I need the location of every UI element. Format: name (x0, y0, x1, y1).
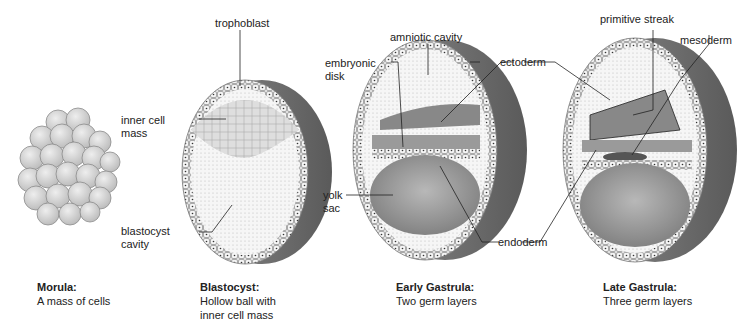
embryo-development-diagram (0, 0, 746, 326)
caption-morula: Morula: A mass of cells (37, 280, 110, 308)
label-amniotic-cavity: amniotic cavity (390, 31, 462, 44)
late-gastrula-illustration (563, 38, 737, 262)
caption-late-gastrula: Late Gastrula: Three germ layers (603, 280, 692, 308)
blastocyst-illustration (182, 80, 332, 264)
morula-illustration (18, 108, 120, 225)
label-ectoderm: ectoderm (500, 56, 546, 69)
label-primitive-streak: primitive streak (600, 13, 674, 26)
label-inner-cell-mass: inner cell mass (121, 114, 165, 140)
caption-early-gastrula: Early Gastrula: Two germ layers (396, 280, 477, 308)
label-endoderm: endoderm (498, 236, 548, 249)
label-embryonic-disk: embryonic disk (325, 57, 376, 83)
caption-blastocyst: Blastocyst: Hollow ball with inner cell … (200, 280, 276, 322)
label-blastocyst-cavity: blastocyst cavity (121, 225, 170, 251)
label-trophoblast: trophoblast (215, 17, 269, 30)
label-yolk-sac: yolk sac (323, 189, 343, 215)
label-mesoderm: mesoderm (680, 34, 732, 47)
early-gastrula-illustration (353, 40, 527, 260)
